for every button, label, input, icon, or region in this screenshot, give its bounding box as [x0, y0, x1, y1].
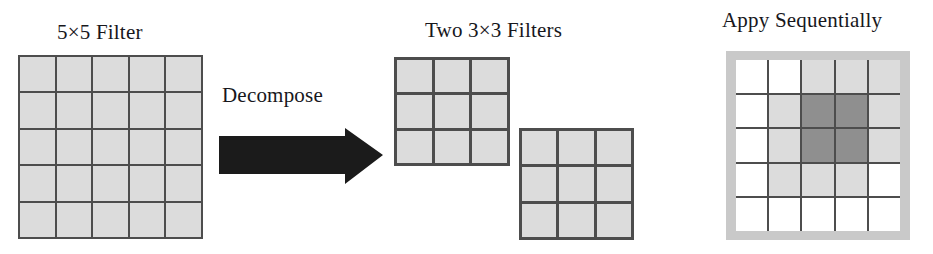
second-3x3-filter-cell-r1-c1: [522, 131, 556, 164]
second-3x3-filter-cell-r3-c1: [522, 204, 556, 237]
source-filter-cell-r1-c1: [20, 57, 55, 91]
result-grid-cell-r4-c1: [736, 164, 767, 197]
result-grid-cell-r1-c1: [736, 60, 767, 93]
source-filter-cell-r3-c1: [20, 130, 55, 164]
source-filter-cell-r3-c3: [93, 130, 128, 164]
decompose-label: Decompose: [222, 85, 323, 106]
result-panel-title: Appy Sequentially: [722, 10, 882, 31]
source-filter-cell-r1-c5: [166, 57, 201, 91]
result-grid-cell-r2-c3: [802, 95, 833, 128]
first-3x3-filter-cell-r2-c1: [397, 95, 432, 127]
source-filter-cell-r5-c5: [166, 203, 201, 237]
result-grid-cell-r1-c4: [836, 60, 867, 93]
second-3x3-filter-cell-r3-c2: [559, 204, 593, 237]
result-grid-cell-r3-c3: [802, 129, 833, 162]
result-grid-cell-r1-c2: [769, 60, 800, 93]
source-filter-grid: [18, 55, 203, 239]
right-arrow-shape: [219, 128, 383, 184]
first-3x3-filter-cell-r1-c3: [472, 60, 507, 92]
decomposed-filters-title: Two 3×3 Filters: [425, 20, 562, 41]
result-grid-cell-r5-c1: [736, 198, 767, 231]
source-filter-cell-r2-c1: [20, 93, 55, 127]
second-3x3-filter-cell-r1-c2: [559, 131, 593, 164]
source-filter-cell-r3-c5: [166, 130, 201, 164]
first-3x3-filter-cell-r3-c1: [397, 131, 432, 163]
source-filter-cell-r2-c4: [130, 93, 165, 127]
source-filter-cell-r2-c3: [93, 93, 128, 127]
result-grid-cell-r3-c4: [836, 129, 867, 162]
first-3x3-filter-cell-r2-c2: [435, 95, 470, 127]
source-filter-cell-r3-c2: [57, 130, 92, 164]
first-3x3-filter-grid: [394, 57, 510, 166]
source-filter-cell-r4-c1: [20, 166, 55, 200]
result-grid-cell-r5-c4: [836, 198, 867, 231]
first-3x3-filter-cell-r2-c3: [472, 95, 507, 127]
result-grid-cell-r4-c4: [836, 164, 867, 197]
source-filter-cell-r5-c3: [93, 203, 128, 237]
second-3x3-filter-cell-r2-c1: [522, 167, 556, 200]
result-grid-cell-r2-c5: [869, 95, 900, 128]
second-3x3-filter-cell-r2-c2: [559, 167, 593, 200]
source-filter-cell-r4-c3: [93, 166, 128, 200]
source-filter-cell-r1-c3: [93, 57, 128, 91]
source-filter-cell-r5-c2: [57, 203, 92, 237]
result-grid-cell-r5-c2: [769, 198, 800, 231]
first-3x3-filter-cell-r3-c2: [435, 131, 470, 163]
result-grid-cell-r2-c1: [736, 95, 767, 128]
result-grid-cell-r1-c3: [802, 60, 833, 93]
source-filter-title: 5×5 Filter: [57, 22, 143, 43]
source-filter-cell-r1-c4: [130, 57, 165, 91]
source-filter-cell-r2-c5: [166, 93, 201, 127]
first-3x3-filter-cell-r1-c2: [435, 60, 470, 92]
result-grid-cell-r5-c5: [869, 198, 900, 231]
source-filter-cell-r5-c1: [20, 203, 55, 237]
source-filter-cell-r1-c2: [57, 57, 92, 91]
second-3x3-filter-cell-r1-c3: [597, 131, 631, 164]
result-grid-cell-r1-c5: [869, 60, 900, 93]
source-filter-cell-r2-c2: [57, 93, 92, 127]
source-filter-cell-r4-c2: [57, 166, 92, 200]
second-3x3-filter-cell-r3-c3: [597, 204, 631, 237]
result-grid-cell-r3-c5: [869, 129, 900, 162]
right-arrow-icon: [219, 128, 383, 184]
result-grid-cell-r2-c2: [769, 95, 800, 128]
result-grid: [736, 60, 900, 231]
result-grid-cell-r4-c5: [869, 164, 900, 197]
source-filter-cell-r4-c4: [130, 166, 165, 200]
first-3x3-filter-cell-r3-c3: [472, 131, 507, 163]
result-grid-cell-r3-c2: [769, 129, 800, 162]
second-3x3-filter-cell-r2-c3: [597, 167, 631, 200]
result-grid-cell-r3-c1: [736, 129, 767, 162]
source-filter-cell-r5-c4: [130, 203, 165, 237]
result-grid-frame: [726, 51, 910, 240]
source-filter-cell-r4-c5: [166, 166, 201, 200]
result-grid-cell-r2-c4: [836, 95, 867, 128]
source-filter-cell-r3-c4: [130, 130, 165, 164]
result-grid-cell-r4-c3: [802, 164, 833, 197]
first-3x3-filter-cell-r1-c1: [397, 60, 432, 92]
second-3x3-filter-grid: [519, 128, 634, 240]
result-grid-cell-r4-c2: [769, 164, 800, 197]
result-grid-cell-r5-c3: [802, 198, 833, 231]
